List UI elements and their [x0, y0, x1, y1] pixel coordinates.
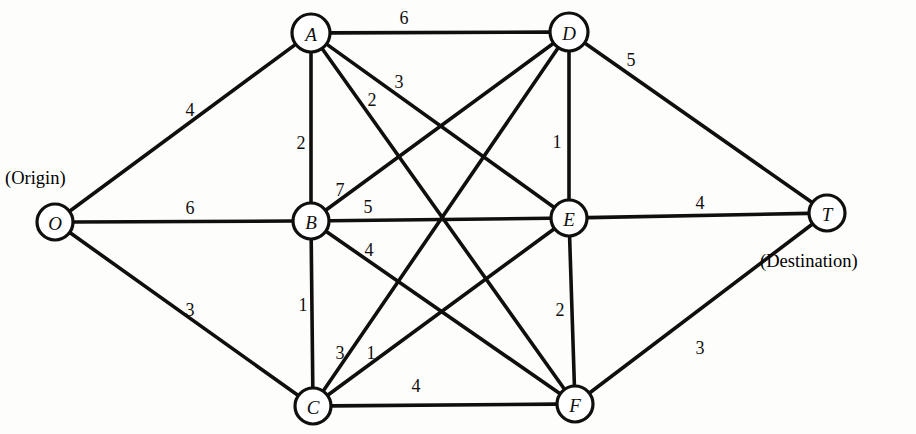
edge-o-a: [70, 45, 295, 211]
edge-b-c: [311, 240, 313, 387]
node-e[interactable]: E: [551, 200, 587, 236]
network-diagram: OABCDEFT 4636223754131415243 (Origin) (D…: [0, 0, 916, 434]
edge-weight-b-e: 5: [364, 197, 373, 217]
node-c[interactable]: C: [295, 388, 331, 424]
edge-weight-f-t: 3: [696, 338, 705, 358]
node-t[interactable]: T: [809, 195, 845, 231]
edge-e-t: [588, 213, 808, 217]
edge-weight-e-f: 2: [556, 300, 565, 320]
edge-o-b: [74, 221, 292, 222]
edge-c-e: [328, 229, 553, 395]
origin-annotation: (Origin): [5, 168, 66, 189]
node-label-b: B: [305, 212, 317, 233]
node-d[interactable]: D: [550, 13, 588, 51]
node-label-a: A: [303, 24, 317, 45]
edge-weight-d-t: 5: [627, 50, 636, 70]
edge-c-f: [332, 404, 556, 406]
node-label-e: E: [562, 209, 575, 230]
edge-weight-d-e: 1: [553, 132, 562, 152]
node-label-f: F: [568, 395, 581, 416]
edge-f-t: [590, 224, 812, 392]
node-f[interactable]: F: [557, 386, 593, 422]
edge-weight-a-f: 3: [395, 72, 404, 92]
network-svg: OABCDEFT 4636223754131415243: [0, 0, 916, 434]
edge-a-d: [331, 32, 549, 33]
edge-weight-b-f: 4: [365, 240, 374, 260]
node-label-c: C: [307, 397, 320, 418]
edge-weight-a-d: 6: [400, 8, 409, 28]
node-label-o: O: [48, 213, 62, 234]
edge-o-c: [70, 233, 297, 395]
edge-weight-o-a: 4: [186, 100, 195, 120]
edge-weight-b-c: 1: [299, 295, 308, 315]
node-label-d: D: [561, 23, 576, 44]
edge-weight-c-d: 3: [336, 343, 345, 363]
edge-e-f: [570, 237, 575, 385]
edge-weight-b-d: 7: [336, 180, 345, 200]
edge-weight-c-f: 4: [412, 376, 421, 396]
edge-weight-o-b: 6: [186, 198, 195, 218]
edge-d-t: [585, 43, 811, 202]
node-o[interactable]: O: [37, 204, 73, 240]
edge-weight-a-b: 2: [297, 133, 306, 153]
edge-weight-o-c: 3: [186, 300, 195, 320]
edge-weight-a-e: 2: [368, 90, 377, 110]
edge-weight-c-e: 1: [367, 343, 376, 363]
node-label-t: T: [822, 204, 834, 225]
destination-annotation: (Destination): [760, 251, 858, 272]
node-b[interactable]: B: [293, 203, 329, 239]
node-a[interactable]: A: [292, 14, 330, 52]
edge-weight-e-t: 4: [696, 193, 705, 213]
